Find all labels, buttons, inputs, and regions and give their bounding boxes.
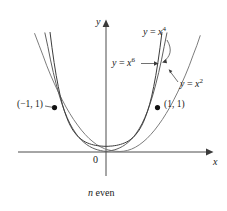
point-marker-right (155, 105, 160, 110)
figure-even-power-functions: y x 0 y = x4 y = x6 y = x2 (−1, 1) (1, 1… (0, 0, 227, 211)
curve-label-x-sixth: y = x6 (112, 58, 135, 68)
leader-x6 (141, 61, 159, 65)
figure-caption-text: even (93, 187, 114, 198)
curve-label-x-squared: y = x2 (180, 79, 203, 89)
curve-label-x-fourth-exp: 4 (163, 25, 167, 33)
y-axis (103, 20, 110, 177)
x-axis-label: x (213, 157, 217, 167)
leader-x2 (169, 69, 178, 82)
curve-label-x-sixth-eq: = (116, 57, 127, 68)
point-label-right: (1, 1) (164, 100, 185, 110)
curve-label-x-sixth-exp: 6 (132, 56, 136, 64)
leader-point-left (45, 106, 53, 107)
y-axis-label: y (96, 17, 100, 27)
curve-label-x-fourth-eq: = (147, 26, 158, 37)
curve-label-x-fourth: y = x4 (143, 27, 166, 37)
curve-label-x-squared-exp: 2 (200, 77, 204, 85)
point-label-left: (−1, 1) (17, 100, 43, 110)
curve-label-x-squared-eq: = (184, 78, 195, 89)
origin-label: 0 (93, 155, 98, 165)
figure-caption: n even (88, 188, 114, 198)
point-marker-left (52, 105, 57, 110)
